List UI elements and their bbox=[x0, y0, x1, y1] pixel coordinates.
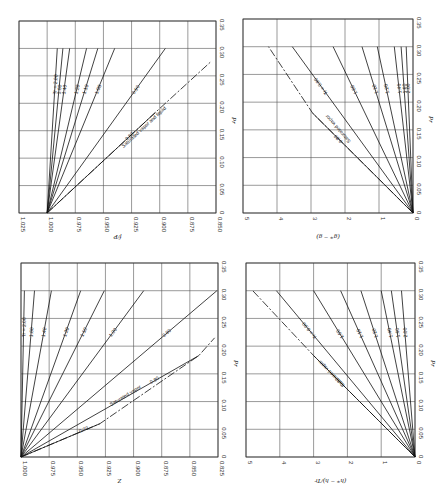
pressure-tick-label: 0.35 bbox=[418, 261, 424, 273]
isotherm-label: 1.40 bbox=[395, 83, 402, 94]
pressure-tick-label: 0.10 bbox=[219, 156, 225, 168]
pressure-tick-label: 0 bbox=[219, 211, 225, 215]
chart-enthalpy: 54321000.050.100.150.200.250.300.35(h* −… bbox=[246, 261, 437, 485]
value-tick-label: 0.925 bbox=[133, 217, 139, 233]
value-tick-label: 1 bbox=[380, 217, 386, 221]
value-tick-label: 5 bbox=[244, 217, 250, 221]
value-axis-label: (g* − g) bbox=[316, 233, 340, 241]
chart-free-energy: 54321000.050.100.150.200.250.300.35(g* −… bbox=[243, 17, 435, 241]
isotherm-label: 1.00 bbox=[349, 84, 359, 96]
isotherm-label: 2.00 bbox=[401, 327, 408, 337]
isotherm-label: 1.60 bbox=[28, 327, 35, 337]
value-tick-label: 0.875 bbox=[189, 217, 195, 233]
isotherm-label: 1.10 bbox=[81, 84, 90, 95]
isotherm-label: 1.00 bbox=[93, 83, 102, 94]
isotherm-label: 1.40 bbox=[40, 327, 48, 338]
saturation-label: Saturated vapor and liquid bbox=[120, 105, 167, 149]
plot-frame bbox=[21, 263, 218, 457]
plot-frame bbox=[246, 263, 415, 457]
pressure-tick-label: 0.20 bbox=[418, 344, 424, 356]
value-tick-label: 0.900 bbox=[161, 217, 167, 233]
value-tick-label: 0.975 bbox=[50, 461, 56, 477]
isotherm-label: 1.10 bbox=[371, 83, 380, 94]
pressure-tick-label: 0.30 bbox=[221, 289, 227, 301]
value-tick-label: 1.000 bbox=[48, 217, 54, 233]
value-tick-label: 0.850 bbox=[191, 461, 197, 477]
pressure-tick-label: 0.05 bbox=[418, 427, 424, 439]
value-tick-label: 4 bbox=[278, 217, 284, 221]
isotherm-label: 1.40 bbox=[60, 84, 67, 95]
value-tick-label: 0.950 bbox=[78, 461, 84, 477]
value-tick-label: 0 bbox=[416, 461, 422, 465]
pressure-axis-label: Pr bbox=[427, 115, 435, 123]
value-tick-label: 0.850 bbox=[217, 217, 223, 233]
pressure-tick-label: 0.05 bbox=[219, 184, 225, 196]
pressure-tick-label: 0.30 bbox=[416, 45, 422, 57]
pressure-tick-label: 0.25 bbox=[416, 72, 422, 84]
value-axis-label: f/P bbox=[113, 233, 122, 241]
value-tick-label: 3 bbox=[315, 461, 321, 465]
pressure-axis-label: Pr bbox=[429, 359, 437, 367]
pressure-tick-label: 0.20 bbox=[221, 344, 227, 356]
value-tick-label: 3 bbox=[312, 217, 318, 221]
pressure-tick-label: 0.25 bbox=[219, 74, 225, 86]
pressure-axis-label: Pr bbox=[230, 116, 238, 124]
value-tick-label: 0.900 bbox=[135, 461, 141, 477]
value-axis-label: Z bbox=[117, 477, 121, 485]
pressure-tick-label: 0 bbox=[418, 455, 424, 459]
pressure-tick-label: 0.05 bbox=[416, 183, 422, 195]
pressure-tick-label: 0.20 bbox=[219, 101, 225, 113]
isotherm-label: Tr = 0.90 bbox=[312, 76, 329, 96]
isotherm-label: 1.10 bbox=[355, 328, 365, 340]
pressure-tick-label: 0.15 bbox=[416, 128, 422, 140]
value-tick-label: 0.950 bbox=[104, 217, 110, 233]
pressure-tick-label: 0.10 bbox=[418, 400, 424, 412]
isotherm-label: 0.90 bbox=[161, 327, 172, 338]
isotherm-label: 1.10 bbox=[79, 326, 89, 338]
value-axis-label: (h* − h)/Tr bbox=[314, 477, 346, 485]
value-tick-label: 1.000 bbox=[22, 461, 28, 477]
pressure-tick-label: 0.25 bbox=[221, 316, 227, 328]
value-tick-label: 0.975 bbox=[76, 217, 82, 233]
pressure-tick-label: 0.10 bbox=[221, 400, 227, 412]
saturation-label: Saturated vapor bbox=[109, 383, 143, 407]
pressure-tick-label: 0.15 bbox=[219, 129, 225, 141]
value-tick-label: 0.875 bbox=[163, 461, 169, 477]
value-tick-label: 0 bbox=[414, 217, 420, 221]
pressure-tick-label: 0.20 bbox=[416, 100, 422, 112]
value-tick-label: 0.825 bbox=[219, 461, 225, 477]
isotherm-label: 1.20 bbox=[73, 84, 81, 95]
isotherm-label: 1.20 bbox=[370, 328, 379, 339]
isotherm-label: 1.40 bbox=[386, 327, 394, 338]
isotherm-label: 1.00 bbox=[335, 328, 345, 340]
pressure-axis-label: Pr bbox=[232, 359, 240, 367]
chart-fugacity: 1.0251.0000.9750.9500.9250.9000.8750.850… bbox=[19, 19, 238, 241]
pressure-tick-label: 0.35 bbox=[416, 17, 422, 29]
pressure-tick-label: 0.10 bbox=[416, 156, 422, 168]
isotherm-label: 1.20 bbox=[61, 326, 70, 337]
value-tick-label: 5 bbox=[247, 461, 253, 465]
value-tick-label: 1 bbox=[382, 461, 388, 465]
chart-compressibility: 1.0000.9750.9500.9250.9000.8750.8500.825… bbox=[20, 261, 240, 485]
pressure-tick-label: 0.05 bbox=[221, 427, 227, 439]
isotherm-label: 1.20 bbox=[382, 83, 390, 94]
value-tick-label: 2 bbox=[348, 461, 354, 465]
figure: 1.0251.0000.9750.9500.9250.9000.8750.850… bbox=[0, 0, 440, 489]
value-tick-label: 0.925 bbox=[106, 461, 112, 477]
pressure-tick-label: 0.15 bbox=[221, 372, 227, 384]
pressure-tick-label: 0.15 bbox=[418, 372, 424, 384]
isotherm-label: 1.60 bbox=[394, 327, 401, 338]
isotherm-label: Tr = 0.90 bbox=[300, 321, 318, 340]
pressure-tick-label: 0.35 bbox=[219, 19, 225, 31]
value-tick-label: 2 bbox=[346, 217, 352, 221]
pressure-tick-label: 0.30 bbox=[418, 289, 424, 301]
value-tick-label: 4 bbox=[281, 461, 287, 465]
isotherm-label: Tr = 2.00 bbox=[20, 317, 26, 337]
value-tick-label: 1.025 bbox=[20, 217, 26, 233]
pressure-tick-label: 0 bbox=[221, 455, 227, 459]
pressure-tick-label: 0 bbox=[416, 211, 422, 215]
pressure-tick-label: 0.35 bbox=[221, 261, 227, 273]
pressure-tick-label: 0.25 bbox=[418, 316, 424, 328]
pressure-tick-label: 0.30 bbox=[219, 46, 225, 58]
